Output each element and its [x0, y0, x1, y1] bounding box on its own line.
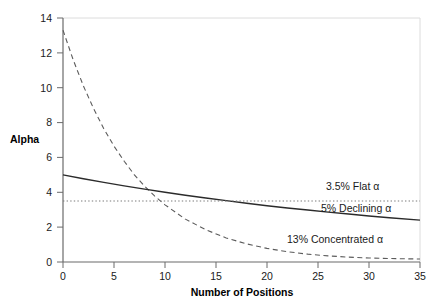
y-tick-label-6: 6	[46, 151, 52, 163]
y-tick-label-12: 12	[40, 47, 52, 59]
y-tick-label-10: 10	[40, 82, 52, 94]
x-axis-title: Number of Positions	[191, 286, 294, 298]
x-tick-label-5: 5	[111, 270, 117, 282]
series-line-concentrated	[63, 30, 420, 259]
y-axis-title: Alpha	[10, 133, 39, 145]
x-tick-label-25: 25	[312, 270, 324, 282]
y-tick-label-0: 0	[46, 256, 52, 268]
x-axis-ticks	[63, 262, 420, 268]
y-axis-ticks	[57, 18, 63, 262]
y-tick-label-14: 14	[40, 12, 52, 24]
x-tick-label-10: 10	[159, 270, 171, 282]
annotation-declining-alpha: 5% Declining α	[321, 202, 391, 214]
x-tick-label-20: 20	[261, 270, 273, 282]
x-tick-label-35: 35	[414, 270, 426, 282]
alpha-vs-positions-chart: 0 2 4 6 8 10 12 14 0 5 10 15 20 25 30 35	[0, 0, 446, 308]
x-tick-label-0: 0	[60, 270, 66, 282]
y-tick-label-8: 8	[46, 116, 52, 128]
annotation-concentrated-alpha: 13% Concentrated α	[287, 233, 383, 245]
chart-page: 0 2 4 6 8 10 12 14 0 5 10 15 20 25 30 35	[0, 0, 446, 308]
annotation-flat-alpha: 3.5% Flat α	[326, 180, 379, 192]
y-tick-label-4: 4	[46, 186, 52, 198]
x-tick-label-30: 30	[363, 270, 375, 282]
x-tick-label-15: 15	[210, 270, 222, 282]
y-tick-label-2: 2	[46, 221, 52, 233]
